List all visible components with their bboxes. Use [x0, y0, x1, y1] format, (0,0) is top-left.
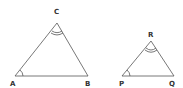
triangle-pqr	[122, 41, 174, 76]
triangle-abc	[15, 23, 88, 76]
angle-r-arc-outer	[145, 50, 157, 52]
vertex-label-c: C	[54, 8, 59, 16]
vertex-label-r: R	[148, 31, 154, 39]
triangle-pqr-shape	[122, 41, 174, 76]
triangle-abc-shape	[15, 23, 88, 76]
vertex-label-p: P	[119, 80, 124, 88]
angle-c-arc-inner	[52, 31, 62, 33]
vertex-label-q: Q	[169, 80, 175, 88]
similar-triangles-diagram: C A B R P Q	[0, 0, 183, 88]
angle-a-arc	[20, 70, 23, 76]
angle-c-arc-outer	[51, 33, 63, 35]
vertex-label-a: A	[10, 80, 16, 88]
angle-r-arc-inner	[146, 48, 156, 50]
angle-p-arc	[127, 70, 130, 76]
vertex-label-b: B	[85, 80, 90, 88]
